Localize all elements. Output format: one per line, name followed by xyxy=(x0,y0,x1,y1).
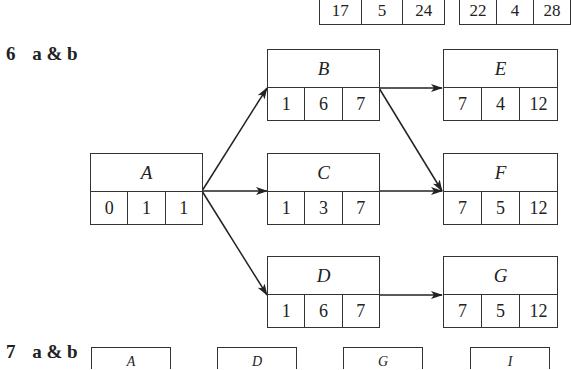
duration: 1 xyxy=(128,192,165,224)
node-title: B xyxy=(268,50,379,88)
node-title: F xyxy=(444,154,557,192)
earliest-start: 1 xyxy=(268,192,305,224)
edge-A-D xyxy=(202,191,267,295)
earliest-start: 7 xyxy=(444,88,482,120)
section-parts: a & b xyxy=(32,341,77,362)
earliest-finish: 7 xyxy=(343,192,379,224)
duration: 5 xyxy=(482,192,520,224)
earliest-start: 7 xyxy=(444,192,482,224)
node-E: E 7 4 12 xyxy=(443,49,558,121)
node-title: D xyxy=(268,257,379,295)
node-title: G xyxy=(444,257,557,295)
earliest-finish: 7 xyxy=(343,295,379,327)
stub-node-G: G xyxy=(343,347,423,369)
duration: 4 xyxy=(482,88,520,120)
node-F: F 7 5 12 xyxy=(443,153,558,225)
earliest-start: 1 xyxy=(268,295,305,327)
node-A: A 0 1 1 xyxy=(90,153,203,225)
node-title: C xyxy=(268,154,379,192)
earliest-finish: 7 xyxy=(343,88,379,120)
section-7-label: 7 a & b xyxy=(6,341,78,363)
node-title: A xyxy=(127,354,136,369)
stub-node-A: A xyxy=(91,347,171,369)
earliest-start: 0 xyxy=(91,192,128,224)
earliest-finish: 1 xyxy=(166,192,202,224)
earliest-finish: 12 xyxy=(520,295,557,327)
earliest-finish: 12 xyxy=(520,88,557,120)
stub-node-D: D xyxy=(217,347,297,369)
node-title: D xyxy=(252,354,262,369)
node-G: G 7 5 12 xyxy=(443,256,558,328)
node-B: B 1 6 7 xyxy=(267,49,380,121)
stub-node-I: I xyxy=(470,347,550,369)
node-title: G xyxy=(378,354,388,369)
earliest-finish: 12 xyxy=(520,192,557,224)
earliest-start: 7 xyxy=(444,295,482,327)
edge-B-F xyxy=(379,88,442,191)
node-C: C 1 3 7 xyxy=(267,153,380,225)
node-title: E xyxy=(444,50,557,88)
duration: 5 xyxy=(482,295,520,327)
duration: 6 xyxy=(305,88,342,120)
section-number: 7 xyxy=(6,341,16,362)
node-title: A xyxy=(91,154,202,192)
node-title: I xyxy=(508,354,513,369)
earliest-start: 1 xyxy=(268,88,305,120)
node-D: D 1 6 7 xyxy=(267,256,380,328)
duration: 3 xyxy=(305,192,342,224)
duration: 6 xyxy=(305,295,342,327)
edge-A-B xyxy=(202,88,267,191)
